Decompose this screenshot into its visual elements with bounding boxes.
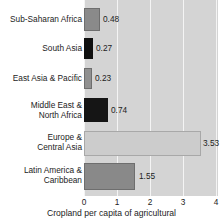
bar-south-asia [84, 38, 93, 59]
category-label-middle-east-north-africa: Middle East & North Africa [0, 100, 82, 120]
xtick-0: 0 [74, 197, 94, 207]
category-label-latin-america-caribbean: Latin America & Caribbean [0, 165, 82, 185]
value-label-sub-saharan-africa: 0.48 [103, 14, 119, 24]
category-label-south-asia: South Asia [0, 43, 82, 53]
bar-fill [84, 163, 135, 190]
gridline-3 [183, 0, 184, 196]
value-label-middle-east-north-africa: 0.74 [111, 105, 127, 115]
gridline-2 [150, 0, 151, 196]
x-axis-title: Cropland per capita of agricultural [0, 208, 223, 219]
category-label-east-asia-pacific: East Asia & Pacific [0, 73, 82, 83]
value-label-east-asia-pacific: 0.23 [95, 73, 111, 83]
xtick-1: 1 [107, 197, 127, 207]
xtick-4: 4 [206, 197, 223, 207]
gridline-4 [216, 0, 217, 196]
category-label-sub-saharan-africa: Sub-Saharan Africa [0, 14, 82, 24]
cropland-per-capita-bar-chart: Sub-Saharan Africa 0.48 South Asia 0.27 … [0, 0, 223, 222]
bar-fill [84, 131, 201, 156]
bar-sub-saharan-africa [84, 8, 100, 31]
bar-fill [84, 8, 100, 31]
bar-europe-central-asia [84, 131, 201, 156]
value-label-europe-central-asia: 3.53 [203, 138, 219, 148]
xtick-2: 2 [140, 197, 160, 207]
bar-fill [84, 98, 108, 122]
category-label-europe-central-asia: Europe & Central Asia [0, 132, 82, 152]
value-label-latin-america-caribbean: 1.55 [139, 171, 155, 181]
bar-east-asia-pacific [84, 68, 92, 89]
bar-fill [84, 68, 92, 89]
xtick-3: 3 [173, 197, 193, 207]
bar-middle-east-north-africa [84, 98, 108, 122]
value-label-south-asia: 0.27 [96, 43, 112, 53]
bar-latin-america-caribbean [84, 163, 135, 190]
bar-fill [84, 38, 93, 59]
